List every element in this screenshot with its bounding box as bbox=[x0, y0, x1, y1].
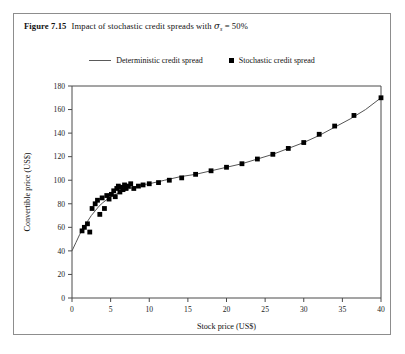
y-tick-label: 80 bbox=[57, 200, 65, 209]
series-marker-1 bbox=[317, 132, 322, 137]
series-marker-1 bbox=[147, 181, 152, 186]
y-tick-label: 0 bbox=[61, 294, 65, 303]
series-marker-1 bbox=[136, 184, 141, 189]
series-marker-1 bbox=[224, 165, 229, 170]
chart-svg: 0204060801001201401601800510152025303540… bbox=[14, 14, 392, 336]
series-marker-1 bbox=[90, 206, 95, 211]
x-tick-label: 20 bbox=[223, 305, 231, 314]
series-marker-1 bbox=[352, 113, 357, 118]
series-marker-1 bbox=[128, 181, 133, 186]
x-tick-label: 15 bbox=[184, 305, 192, 314]
series-marker-1 bbox=[97, 212, 102, 217]
y-tick-label: 100 bbox=[54, 176, 66, 185]
series-marker-1 bbox=[167, 178, 172, 183]
series-marker-1 bbox=[286, 146, 291, 151]
series-marker-1 bbox=[95, 198, 100, 203]
y-tick-label: 160 bbox=[54, 105, 66, 114]
plot-area: 0204060801001201401601800510152025303540… bbox=[14, 14, 392, 336]
x-tick-label: 25 bbox=[261, 305, 269, 314]
series-marker-1 bbox=[209, 168, 214, 173]
series-marker-1 bbox=[255, 157, 260, 162]
series-marker-1 bbox=[156, 180, 161, 185]
y-axis-title: Convertible price (US$) bbox=[23, 152, 32, 231]
x-tick-label: 0 bbox=[70, 305, 74, 314]
x-tick-label: 40 bbox=[377, 305, 385, 314]
series-marker-1 bbox=[100, 195, 105, 200]
figure-container: Figure 7.15Impact of stochastic credit s… bbox=[13, 13, 391, 335]
x-tick-label: 30 bbox=[300, 305, 308, 314]
y-tick-label: 20 bbox=[57, 270, 65, 279]
series-marker-1 bbox=[240, 161, 245, 166]
series-marker-1 bbox=[113, 194, 118, 199]
series-marker-1 bbox=[107, 197, 112, 202]
series-marker-1 bbox=[87, 230, 92, 235]
series-marker-1 bbox=[131, 186, 136, 191]
series-marker-1 bbox=[301, 140, 306, 145]
series-marker-1 bbox=[141, 183, 146, 188]
x-tick-label: 35 bbox=[339, 305, 347, 314]
series-marker-1 bbox=[193, 172, 198, 177]
series-marker-1 bbox=[379, 95, 384, 100]
series-marker-1 bbox=[179, 175, 184, 180]
y-tick-label: 60 bbox=[57, 223, 65, 232]
x-tick-label: 5 bbox=[109, 305, 113, 314]
series-marker-1 bbox=[332, 124, 337, 129]
y-tick-label: 140 bbox=[54, 129, 66, 138]
y-tick-label: 120 bbox=[54, 152, 66, 161]
x-tick-label: 10 bbox=[145, 305, 153, 314]
series-marker-1 bbox=[270, 152, 275, 157]
series-marker-1 bbox=[85, 221, 90, 226]
y-tick-label: 180 bbox=[54, 82, 66, 91]
x-axis-title: Stock price (US$) bbox=[197, 322, 256, 331]
series-marker-1 bbox=[102, 206, 107, 211]
y-tick-label: 40 bbox=[57, 247, 65, 256]
series-line-0 bbox=[72, 98, 381, 251]
